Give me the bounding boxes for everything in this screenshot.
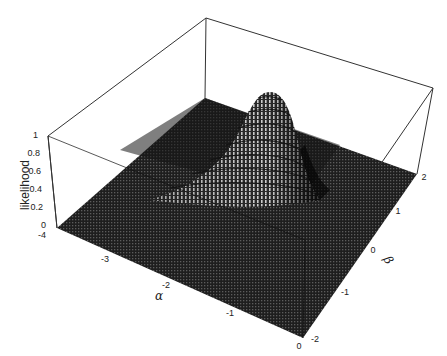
svg-text:-2: -2 (311, 334, 319, 344)
svg-text:-2: -2 (162, 280, 170, 290)
beta-axis-label: β (380, 253, 396, 267)
likelihood-surface-plot: 1 0.8 0.6 0.4 0.2 0 likelihood -4 -3 -2 … (0, 0, 447, 356)
svg-text:0.8: 0.8 (27, 148, 40, 158)
svg-text:1: 1 (33, 130, 38, 140)
alpha-axis-label: α (155, 289, 163, 303)
svg-text:0: 0 (296, 341, 301, 351)
z-axis-label: likelihood (18, 160, 32, 210)
svg-text:0: 0 (370, 245, 375, 255)
svg-text:-3: -3 (101, 254, 109, 264)
svg-text:1: 1 (395, 206, 400, 216)
svg-text:-1: -1 (226, 308, 234, 318)
svg-text:0.2: 0.2 (30, 202, 43, 212)
svg-text:-1: -1 (341, 287, 349, 297)
z-axis: 1 0.8 0.6 0.4 0.2 0 likelihood (18, 130, 57, 230)
svg-text:2: 2 (421, 172, 426, 182)
svg-text:-4: -4 (38, 230, 46, 240)
svg-text:0: 0 (41, 220, 46, 230)
